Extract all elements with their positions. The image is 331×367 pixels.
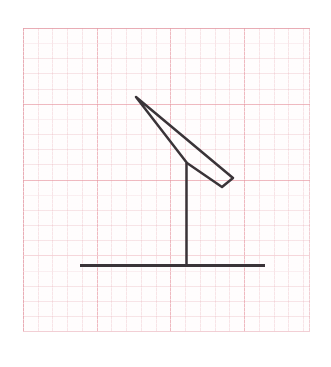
slanted-arm-bar: [136, 97, 233, 187]
sketch-canvas: [0, 0, 331, 367]
lever-diagram: [0, 0, 331, 367]
